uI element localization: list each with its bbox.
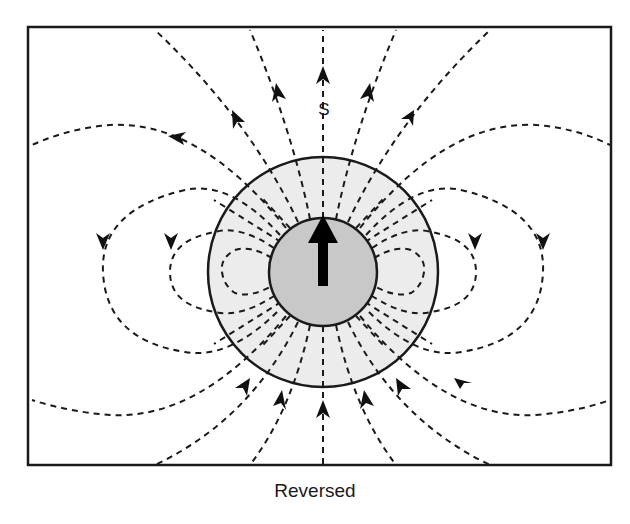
dipole-field-diagram [0, 0, 630, 524]
pole-label-s: S [309, 100, 339, 120]
figure-caption: Reversed [0, 480, 630, 502]
